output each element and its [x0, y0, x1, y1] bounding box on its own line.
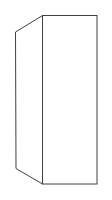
front-face: [43, 16, 98, 185]
box-diagram: [0, 0, 112, 200]
side-face: [16, 16, 43, 185]
